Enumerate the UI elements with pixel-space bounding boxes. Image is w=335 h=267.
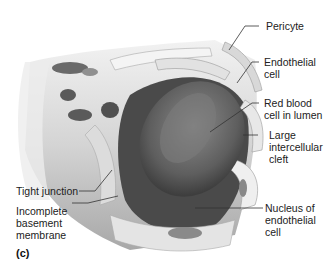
label-red-blood-cell: Red blood cell in lumen xyxy=(264,97,322,121)
label-basement-membrane: Incomplete basement membrane xyxy=(16,205,67,241)
label-pericyte: Pericyte xyxy=(266,20,304,32)
label-nucleus: Nucleus of endothelial cell xyxy=(265,202,316,238)
label-endothelial-cell: Endothelial cell xyxy=(264,56,316,80)
label-intercellular-cleft: Large intercellular cleft xyxy=(269,129,323,165)
label-tight-junction: Tight junction xyxy=(16,185,78,197)
panel-label: (c) xyxy=(16,247,29,259)
